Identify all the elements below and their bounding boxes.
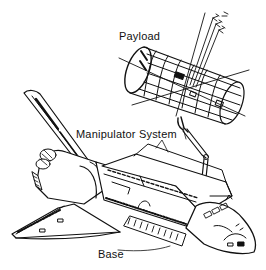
payload-coordinate-axes [119, 12, 249, 116]
manipulator-system-label: Manipulator System [76, 129, 177, 140]
diagram-canvas: Payload Manipulator System Base [0, 0, 266, 270]
payload-label: Payload [119, 31, 160, 42]
base-label: Base [98, 249, 124, 260]
orbiter-base [12, 90, 256, 253]
